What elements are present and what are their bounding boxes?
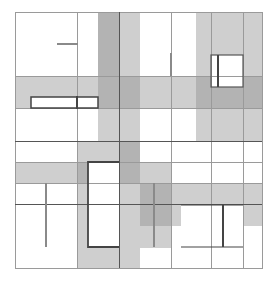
band-upper-right-strip: [98, 12, 119, 76]
band-center-small: [119, 141, 140, 162]
grid-diagram: [0, 0, 277, 288]
box-fill-left: [31, 97, 98, 108]
band-lower-narrow-column: [140, 183, 171, 248]
box-fill-top-right: [211, 55, 243, 87]
